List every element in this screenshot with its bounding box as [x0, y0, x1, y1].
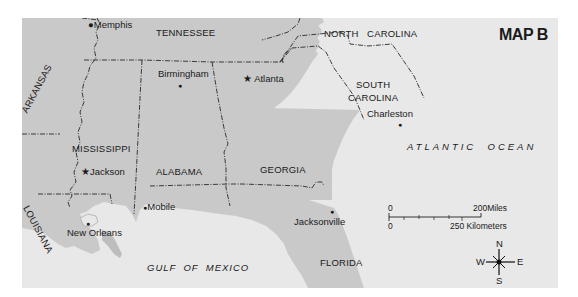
scale-km-unit: Kilometers	[467, 221, 507, 231]
city-jackson: ★Jackson	[81, 167, 125, 177]
scale-km-zero: 0	[388, 222, 393, 231]
city-dot-icon: ●	[86, 220, 90, 227]
water-label-gulf-of-mexico: GULF OF MEXICO	[147, 263, 249, 273]
city-birmingham-label: Birmingham	[158, 69, 209, 79]
scale-bar: 0 200Miles 0 250 Kilometers	[388, 204, 498, 234]
map-frame: MAP B TENNESSEE NORTH CAROLINA ARKANSAS …	[22, 18, 558, 288]
compass-star-icon	[476, 239, 526, 285]
capital-star-icon: ★	[81, 166, 90, 177]
city-jacksonville-label: Jacksonville	[294, 217, 345, 227]
city-dot-icon: ●	[330, 208, 334, 215]
map-title: MAP B	[499, 27, 548, 43]
scale-miles-max: 200Miles	[473, 204, 507, 213]
scale-km-max: 250 Kilometers	[450, 222, 507, 231]
compass-rose: N W E S	[476, 239, 526, 285]
city-mobile: ●Mobile	[143, 202, 175, 212]
state-label-south-carolina-line2: CAROLINA	[348, 93, 398, 103]
scale-miles-zero: 0	[388, 204, 393, 213]
city-dot-icon: ●	[178, 82, 182, 89]
city-memphis: ●Memphis	[88, 20, 132, 30]
city-new-orleans-label: New Orleans	[67, 228, 122, 238]
state-label-south-carolina-line1: SOUTH	[356, 80, 390, 90]
water-label-atlantic-ocean: ATLANTIC OCEAN	[407, 142, 536, 152]
state-label-florida: FLORIDA	[320, 258, 363, 268]
state-label-georgia: GEORGIA	[260, 165, 306, 175]
city-atlanta: ★ Atlanta	[243, 74, 284, 84]
city-charleston-label: Charleston	[367, 109, 413, 119]
state-label-mississippi: MISSISSIPPI	[72, 144, 131, 154]
capital-star-icon: ★	[243, 73, 254, 84]
state-label-alabama: ALABAMA	[156, 167, 202, 177]
state-label-tennessee: TENNESSEE	[156, 28, 215, 38]
city-dot-icon: ●	[398, 121, 402, 128]
state-label-north-carolina: NORTH CAROLINA	[324, 29, 417, 39]
scale-miles-unit: Miles	[487, 203, 507, 213]
